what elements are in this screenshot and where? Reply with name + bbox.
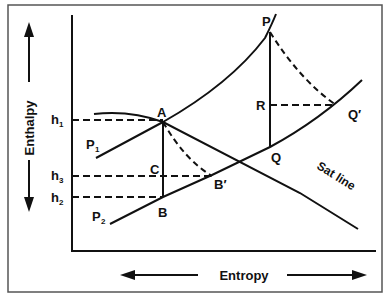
actual-expansion-pq-prime xyxy=(270,32,336,105)
svg-text:2: 2 xyxy=(101,217,106,226)
h3-label: h 3 xyxy=(51,168,64,185)
sat-line-label: Sat line xyxy=(314,159,358,194)
point-b-label: B xyxy=(158,205,167,220)
h2-label: h 2 xyxy=(51,190,64,207)
svg-text:1: 1 xyxy=(59,120,64,129)
svg-text:2: 2 xyxy=(59,198,64,207)
y-axis-label: Enthalpy xyxy=(22,100,37,156)
point-a-label: A xyxy=(157,105,167,120)
point-q-prime-label: Q′ xyxy=(348,107,361,122)
pressure-line-p2 xyxy=(110,80,362,224)
entropy-left-arrow-icon xyxy=(120,270,198,280)
point-p-label: P xyxy=(262,14,271,29)
entropy-right-arrow-icon xyxy=(287,270,367,280)
svg-text:P: P xyxy=(86,137,95,152)
svg-text:h: h xyxy=(51,190,59,205)
enthalpy-entropy-diagram: Enthalpy Entropy Sat line h 1 h 3 h 2 xyxy=(0,0,387,296)
svg-text:P: P xyxy=(92,209,101,224)
actual-expansion-ab-prime xyxy=(163,122,212,176)
p2-label: P 2 xyxy=(92,209,106,226)
svg-text:h: h xyxy=(51,168,59,183)
pressure-line-p1 xyxy=(96,14,276,158)
enthalpy-down-arrow-icon xyxy=(24,160,34,212)
enthalpy-up-arrow-icon xyxy=(24,22,34,82)
svg-text:1: 1 xyxy=(95,145,100,154)
point-r-label: R xyxy=(256,98,266,113)
point-c-label: C xyxy=(150,162,160,177)
figure-border xyxy=(8,5,382,292)
x-axis-label: Entropy xyxy=(219,268,269,283)
point-b-prime-label: B′ xyxy=(214,177,227,192)
p1-label: P 1 xyxy=(86,137,100,154)
svg-text:h: h xyxy=(51,112,59,127)
point-q-label: Q xyxy=(271,150,281,165)
h1-label: h 1 xyxy=(51,112,64,129)
svg-text:3: 3 xyxy=(59,176,64,185)
